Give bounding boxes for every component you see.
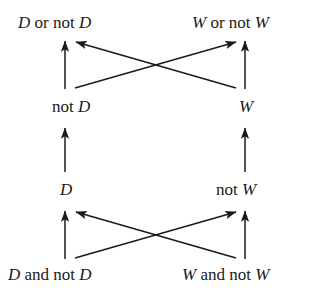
node-top-right-operator: or not <box>206 13 255 32</box>
node-bottom-right-var-1: W <box>182 265 196 284</box>
arrow-layer <box>0 0 320 297</box>
node-lower-right: not W <box>216 181 256 198</box>
node-top-left-var-2: D <box>79 13 91 32</box>
node-lower-left-var: D <box>60 180 72 199</box>
implication-diagram: D or not D W or not W not D W D not W D … <box>0 0 320 297</box>
node-mid-right: W <box>239 98 253 115</box>
node-top-left: D or not D <box>18 14 91 31</box>
node-bottom-right-var-2: W <box>255 265 269 284</box>
node-bottom-right: W and not W <box>182 266 269 283</box>
node-mid-left: not D <box>52 98 90 115</box>
node-lower-right-var: W <box>242 180 256 199</box>
node-bottom-left-var-1: D <box>8 265 20 284</box>
node-lower-right-operator: not <box>216 180 242 199</box>
node-mid-left-operator: not <box>52 97 78 116</box>
node-top-left-operator: or not <box>30 13 79 32</box>
node-top-right-var-1: W <box>192 13 206 32</box>
node-mid-right-var: W <box>239 97 253 116</box>
node-bottom-left-var-2: D <box>79 265 91 284</box>
node-top-right-var-2: W <box>255 13 269 32</box>
node-mid-left-var: D <box>78 97 90 116</box>
node-bottom-right-operator: and not <box>196 265 255 284</box>
node-bottom-left-operator: and not <box>20 265 79 284</box>
node-top-right: W or not W <box>192 14 269 31</box>
node-top-left-var-1: D <box>18 13 30 32</box>
node-lower-left: D <box>60 181 72 198</box>
node-bottom-left: D and not D <box>8 266 92 283</box>
